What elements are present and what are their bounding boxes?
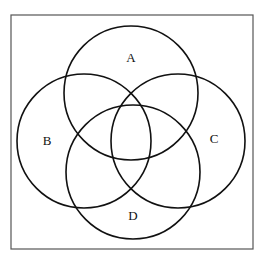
label-c: C bbox=[210, 131, 219, 146]
label-a: A bbox=[126, 50, 136, 65]
label-b: B bbox=[43, 133, 52, 148]
label-d: D bbox=[128, 208, 137, 223]
venn-diagram: ABCD bbox=[0, 0, 262, 262]
